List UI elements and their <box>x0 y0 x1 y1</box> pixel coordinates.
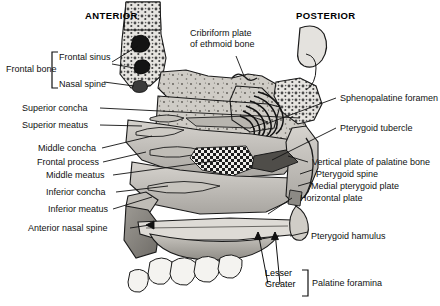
label-vertical-plate-of-palatine-bone: Vertical plate of palatine bone <box>312 157 430 167</box>
frontal-sinus-cavity <box>131 35 149 52</box>
label-frontal-bone: Frontal bone <box>6 64 57 74</box>
label-medial-pterygoid-plate: Medial pterygoid plate <box>311 181 399 191</box>
label-middle-concha: Middle concha <box>38 143 96 153</box>
teeth-shape <box>128 255 242 292</box>
label-superior-meatus: Superior meatus <box>22 120 88 130</box>
label-middle-meatus: Middle meatus <box>46 170 105 180</box>
label-superior-concha: Superior concha <box>22 103 88 113</box>
label-pterygoid-spine: Pterygoid spine <box>316 169 378 179</box>
label-greater-foramen: Greater <box>265 279 296 290</box>
palatine-foramina-group: Lesser Greater <box>265 268 296 289</box>
label-cribriform-plate-line2: of ethmoid bone <box>190 39 255 49</box>
label-nasal-spine: Nasal spine <box>59 79 106 89</box>
label-cribriform-plate-line1: Cribriform plate <box>190 28 252 38</box>
sphenoid-hook-shape <box>298 26 327 67</box>
orientation-label-anterior: ANTERIOR <box>85 10 138 21</box>
superior-concha-shape <box>186 116 268 128</box>
label-pterygoid-tubercle: Pterygoid tubercle <box>340 123 413 133</box>
label-frontal-process: Frontal process <box>37 157 99 167</box>
label-inferior-concha: Inferior concha <box>46 187 106 197</box>
label-palatine-foramina: Palatine foramina <box>312 278 382 288</box>
orientation-label-posterior: POSTERIOR <box>296 10 356 21</box>
figure-canvas: ANTERIOR POSTERIOR Frontal bone Frontal … <box>0 0 440 306</box>
label-sphenopalatine-foramen: Sphenopalatine foramen <box>340 93 438 103</box>
label-inferior-meatus: Inferior meatus <box>48 204 108 214</box>
label-anterior-nasal-spine: Anterior nasal spine <box>28 223 108 233</box>
label-lesser-foramen: Lesser <box>265 268 296 279</box>
label-frontal-sinus: Frontal sinus <box>59 52 111 62</box>
label-pterygoid-hamulus: Pterygoid hamulus <box>311 231 386 241</box>
label-horizontal-plate: Horizontal plate <box>300 193 363 203</box>
palatine-foramina-bracket <box>302 270 308 296</box>
